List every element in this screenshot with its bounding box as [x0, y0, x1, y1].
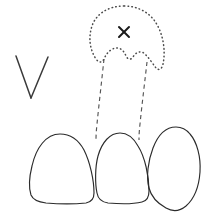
- canvas-background: [0, 0, 210, 217]
- dental-diagram-figure: [0, 0, 210, 217]
- diagram-canvas: [0, 0, 210, 217]
